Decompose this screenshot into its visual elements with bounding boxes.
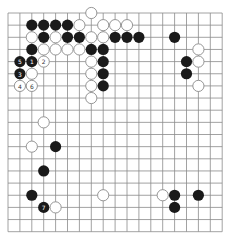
white-stone — [86, 92, 97, 103]
white-stone — [193, 44, 204, 55]
white-stone-circle — [86, 68, 97, 79]
black-stone-circle — [86, 44, 97, 55]
black-stone — [38, 32, 49, 43]
white-stone-circle — [86, 32, 97, 43]
black-stone-circle — [38, 165, 49, 176]
white-stone: 4 — [14, 80, 25, 91]
black-stone — [26, 190, 37, 201]
move-number-label: 7 — [42, 204, 46, 211]
white-stone-circle — [121, 20, 132, 31]
white-stone-circle — [86, 7, 97, 18]
black-stone-circle — [50, 141, 61, 152]
black-stone-circle — [121, 32, 132, 43]
white-stone — [98, 190, 109, 201]
white-stone — [193, 80, 204, 91]
black-stone-circle — [133, 32, 144, 43]
white-stone-circle — [193, 80, 204, 91]
black-stone — [169, 190, 180, 201]
black-stone — [193, 190, 204, 201]
white-stone-circle — [86, 80, 97, 91]
white-stone — [157, 190, 168, 201]
black-stone-circle — [169, 190, 180, 201]
white-stone — [193, 56, 204, 67]
white-stone — [50, 32, 61, 43]
black-stone: 5 — [14, 56, 25, 67]
white-stone-circle — [98, 20, 109, 31]
white-stone — [26, 32, 37, 43]
black-stone-circle — [62, 20, 73, 31]
white-stone-circle — [157, 190, 168, 201]
black-stone — [169, 32, 180, 43]
move-number-label: 5 — [18, 58, 22, 65]
black-stone — [62, 32, 73, 43]
white-stone-circle — [50, 202, 61, 213]
white-stone-circle — [193, 44, 204, 55]
move-number-label: 4 — [18, 83, 22, 90]
black-stone-circle — [50, 20, 61, 31]
move-number-label: 6 — [30, 83, 34, 90]
black-stone-circle — [26, 20, 37, 31]
white-stone — [38, 44, 49, 55]
white-stone — [121, 20, 132, 31]
black-stone — [38, 165, 49, 176]
black-stone-circle — [169, 32, 180, 43]
black-stone-circle — [193, 190, 204, 201]
black-stone-circle — [26, 44, 37, 55]
black-stone — [98, 68, 109, 79]
black-stone — [50, 20, 61, 31]
move-number-label: 3 — [18, 71, 22, 78]
white-stone — [86, 68, 97, 79]
black-stone-circle — [98, 80, 109, 91]
white-stone — [26, 141, 37, 152]
black-stone-circle — [98, 56, 109, 67]
white-stone — [86, 32, 97, 43]
white-stone — [62, 44, 73, 55]
black-stone-circle — [74, 32, 85, 43]
white-stone — [74, 20, 85, 31]
move-number-label: 1 — [30, 58, 34, 65]
black-stone — [181, 68, 192, 79]
white-stone-circle — [86, 92, 97, 103]
white-stone — [110, 20, 121, 31]
white-stone — [86, 7, 97, 18]
white-stone-circle — [98, 32, 109, 43]
black-stone — [181, 56, 192, 67]
white-stone — [50, 44, 61, 55]
black-stone-circle — [98, 44, 109, 55]
black-stone-circle — [26, 190, 37, 201]
white-stone-circle — [74, 44, 85, 55]
black-stone — [26, 20, 37, 31]
go-board[interactable]: 5123467 — [0, 0, 230, 241]
black-stone — [121, 32, 132, 43]
black-stone — [98, 56, 109, 67]
white-stone-circle — [26, 68, 37, 79]
black-stone — [26, 44, 37, 55]
white-stone-circle — [50, 32, 61, 43]
black-stone — [38, 20, 49, 31]
white-stone-circle — [193, 56, 204, 67]
white-stone-circle — [38, 44, 49, 55]
white-stone — [98, 32, 109, 43]
white-stone — [26, 68, 37, 79]
white-stone-circle — [26, 141, 37, 152]
white-stone — [50, 202, 61, 213]
black-stone — [110, 32, 121, 43]
black-stone — [133, 32, 144, 43]
black-stone: 7 — [38, 202, 49, 213]
black-stone-circle — [110, 32, 121, 43]
white-stone — [98, 20, 109, 31]
move-number-label: 2 — [42, 58, 46, 65]
black-stone — [169, 202, 180, 213]
white-stone-circle — [38, 117, 49, 128]
black-stone-circle — [62, 32, 73, 43]
white-stone-circle — [26, 32, 37, 43]
black-stone — [98, 80, 109, 91]
white-stone — [38, 117, 49, 128]
white-stone-circle — [74, 20, 85, 31]
black-stone-circle — [181, 56, 192, 67]
white-stone-circle — [50, 44, 61, 55]
black-stone — [50, 141, 61, 152]
black-stone — [74, 32, 85, 43]
black-stone: 3 — [14, 68, 25, 79]
white-stone: 6 — [26, 80, 37, 91]
